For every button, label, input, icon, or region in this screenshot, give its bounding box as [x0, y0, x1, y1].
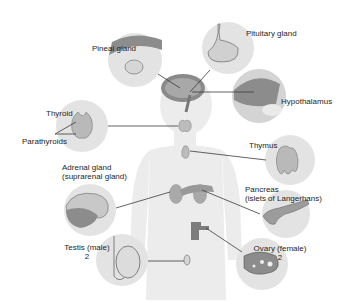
label-testis-line1: Testis (male) — [62, 243, 112, 252]
label-testis-line2: 2 — [62, 252, 112, 261]
thyroid-body-icon — [179, 120, 191, 132]
pineal-inset — [108, 33, 162, 87]
label-adrenal-line2: (suprarenal gland) — [62, 172, 127, 181]
label-pituitary-gland: Pituitary gland — [246, 29, 297, 38]
testis-body-icon — [184, 255, 190, 265]
hypothalamus-inset — [232, 69, 286, 123]
label-pancreas-line2: (islets of Langerhans) — [245, 194, 322, 203]
label-adrenal-line1: Adrenal gland — [62, 163, 127, 172]
label-ovary: Ovary (female) 2 — [252, 244, 308, 262]
label-parathyroids: Parathyroids — [22, 137, 67, 146]
label-testis: Testis (male) 2 — [62, 243, 112, 261]
endocrine-diagram: Pineal gland Pituitary gland Hypothalamu… — [0, 0, 347, 301]
label-pineal-gland: Pineal gland — [92, 44, 136, 53]
thymus-body-icon — [182, 146, 190, 158]
label-pancreas: Pancreas (islets of Langerhans) — [245, 185, 322, 203]
label-thyroid: Thyroid — [46, 109, 73, 118]
label-adrenal-gland: Adrenal gland (suprarenal gland) — [62, 163, 127, 181]
adrenal-inset — [64, 184, 116, 236]
label-thymus: Thymus — [249, 141, 277, 150]
label-ovary-line2: 2 — [252, 253, 308, 262]
label-pancreas-line1: Pancreas — [245, 185, 322, 194]
label-ovary-line1: Ovary (female) — [252, 244, 308, 253]
label-hypothalamus: Hypothalamus — [281, 97, 332, 106]
